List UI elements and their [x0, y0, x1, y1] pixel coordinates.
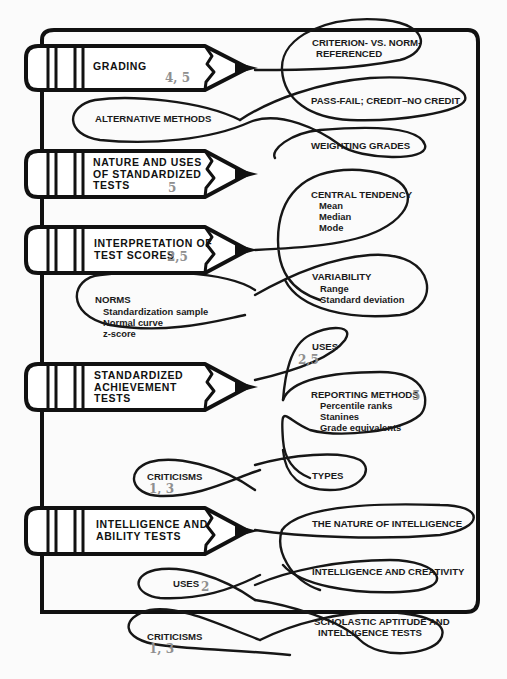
pencil-title-interp-2: TEST SCORES: [94, 249, 175, 261]
item-standardization: Standardization sample: [103, 306, 208, 317]
topic-norms: NORMS: [95, 294, 131, 305]
topic-criterion-2: REFERENCED: [316, 48, 382, 59]
topic-creativity: INTELLIGENCE AND CREATIVITY: [312, 566, 465, 577]
ref-grading: 4, 5: [165, 71, 190, 85]
pencil-title-intel-2: ABILITY TESTS: [96, 530, 181, 542]
item-range: Range: [320, 283, 349, 294]
pencil-title-achieve-3: TESTS: [94, 392, 131, 404]
topic-criterion-1: CRITERION- VS. NORM-: [312, 37, 421, 48]
topic-scholastic-2: INTELLIGENCE TESTS: [318, 627, 423, 638]
pencil-title-grading: GRADING: [93, 60, 147, 72]
topic-weighting: WEIGHTING GRADES: [311, 140, 411, 151]
item-zscore: z-score: [103, 328, 136, 339]
loop-types: [255, 450, 366, 490]
topic-uses-intel: USES: [173, 578, 200, 589]
ref-reporting: 5: [412, 389, 420, 403]
topic-passfail: PASS-FAIL; CREDIT–NO CREDIT: [311, 95, 460, 106]
topic-central: CENTRAL TENDENCY: [311, 189, 413, 200]
ref-uses-intel: 2: [201, 580, 209, 594]
ref-nature: 5: [168, 181, 176, 195]
topic-criticisms-intel: CRITICISMS: [147, 631, 203, 642]
ref-interp: 2,5: [167, 250, 188, 264]
item-stddev: Standard deviation: [320, 294, 405, 305]
topic-nature-intel: THE NATURE OF INTELLIGENCE: [312, 518, 463, 529]
item-percentile: Percentile ranks: [320, 400, 392, 411]
topic-scholastic-1: SCHOLASTIC APTITUDE AND: [314, 616, 450, 627]
item-stanines: Stanines: [320, 411, 359, 422]
item-normal-curve: Normal curve: [103, 317, 163, 328]
topic-criticisms-achieve: CRITICISMS: [147, 471, 203, 482]
ref-criticisms-achieve: 1, 3: [149, 482, 174, 496]
topic-variability: VARIABILITY: [312, 271, 372, 282]
topic-uses-achieve: USES: [312, 341, 339, 352]
pencil-title-achieve-1: STANDARDIZED: [94, 369, 183, 381]
item-median: Median: [319, 211, 352, 222]
topic-types: TYPES: [312, 470, 344, 481]
loop-uses-2: [139, 569, 260, 600]
pencil-title-nature-3: TESTS: [93, 179, 130, 191]
item-grade-equiv: Grade equivalents: [320, 422, 401, 433]
item-mean: Mean: [319, 200, 343, 211]
topic-reporting: REPORTING METHODS: [311, 389, 419, 400]
ref-uses-achieve: 2,5: [298, 353, 319, 367]
pencil-title-nature-2: OF STANDARDIZED: [93, 168, 202, 180]
item-mode: Mode: [319, 222, 343, 233]
pencil-title-nature-1: NATURE AND USES: [93, 156, 202, 168]
pencil-title-intel-1: INTELLIGENCE AND: [96, 518, 208, 530]
topic-alternative: ALTERNATIVE METHODS: [95, 113, 212, 124]
ref-criticisms-intel: 1, 3: [149, 642, 174, 656]
pencil-title-interp-1: INTERPRETATION OF: [94, 237, 212, 249]
concept-map: GRADING 4, 5 NATURE AND USES OF STANDARD…: [0, 0, 507, 679]
